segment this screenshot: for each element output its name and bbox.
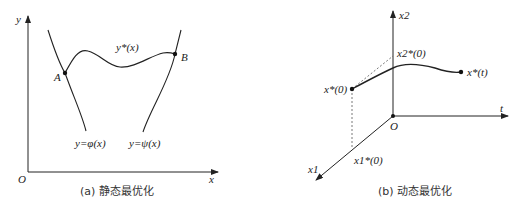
end-point <box>459 70 463 74</box>
origin-label-b: O <box>390 121 398 132</box>
psi-curve-label: y=ψ(x) <box>129 138 160 149</box>
y-axis-label: y <box>16 14 21 25</box>
phi-curve-label: y=φ(x) <box>75 138 106 149</box>
x-axis-label: x <box>209 174 214 185</box>
figure-a-graphics <box>28 16 218 172</box>
x2-projection-label: x2*(0) <box>397 48 426 59</box>
figure-a-caption: (a) 静态最优化 <box>80 186 154 198</box>
x1-axis-label: x1 <box>308 164 318 175</box>
psi-curve <box>143 30 181 132</box>
trajectory-curve <box>352 64 461 89</box>
start-point-label: x*(0) <box>324 84 347 95</box>
origin-label: O <box>18 174 26 185</box>
start-point <box>350 87 354 91</box>
origin-point <box>391 114 395 118</box>
x2-axis-label: x2 <box>399 10 409 21</box>
end-point-label: x*(t) <box>467 67 488 78</box>
point-a <box>63 71 67 75</box>
point-b <box>173 52 177 56</box>
t-axis-label: t <box>500 103 503 114</box>
optimal-curve-label: y*(x) <box>116 42 139 53</box>
x1-projection-label: x1*(0) <box>354 155 383 166</box>
figure-b-caption: (b) 动态最优化 <box>378 186 452 198</box>
point-b-label: B <box>181 52 188 63</box>
optimal-curve <box>65 51 175 73</box>
x2-projection-line <box>352 56 393 89</box>
figure-b-graphics <box>316 11 508 180</box>
point-a-label: A <box>54 72 61 83</box>
x1-axis <box>316 116 393 180</box>
diagram-canvas <box>0 0 515 210</box>
